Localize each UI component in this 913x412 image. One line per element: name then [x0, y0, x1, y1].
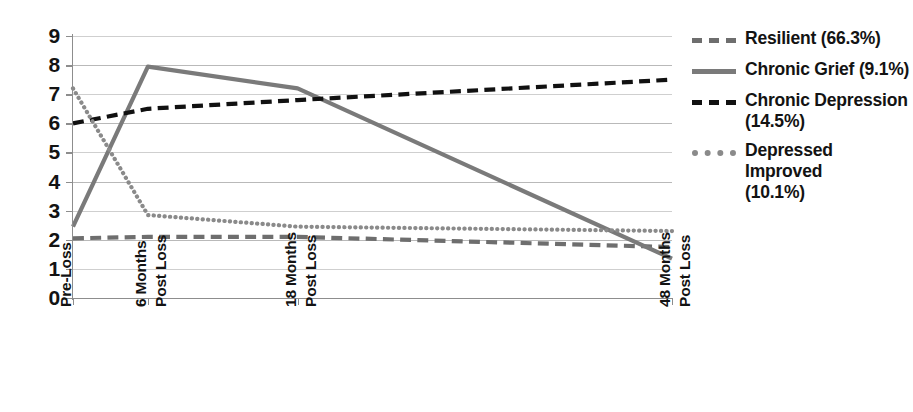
- y-axis-tick: [66, 240, 73, 241]
- legend-line-marker: [692, 38, 736, 43]
- legend-swatch-dotted-icon: [692, 141, 736, 162]
- chart-legend: Resilient (66.3%)Chronic Grief (9.1%)Chr…: [692, 28, 910, 211]
- legend-label-line: Resilient (66.3%): [745, 28, 881, 49]
- y-axis-tick-label: 9: [20, 25, 60, 46]
- y-axis-labels: 0123456789: [0, 0, 60, 412]
- legend-line-marker: [692, 69, 736, 74]
- y-axis-tick-label: 7: [20, 83, 60, 104]
- legend-label: Chronic Grief (9.1%): [745, 59, 909, 80]
- legend-label-line: Chronic Depression: [745, 90, 908, 111]
- legend-item[interactable]: Depressed Improved(10.1%): [692, 140, 910, 202]
- legend-line-marker: [692, 150, 736, 156]
- legend-label-line: Depressed Improved: [745, 140, 910, 181]
- y-axis-tick-label: 5: [20, 141, 60, 162]
- y-axis-tick: [66, 65, 73, 66]
- legend-swatch-dashed-icon: [692, 29, 736, 50]
- legend-item[interactable]: Resilient (66.3%): [692, 28, 910, 50]
- legend-swatch-solid-icon: [692, 60, 736, 81]
- y-axis-tick: [66, 211, 73, 212]
- legend-label-line: (10.1%): [745, 182, 910, 203]
- y-axis-tick: [66, 152, 73, 153]
- y-axis-tick-label: 1: [20, 258, 60, 279]
- legend-label-line: Chronic Grief (9.1%): [745, 59, 909, 80]
- line-chart: 0123456789 Pre-Loss6 MonthsPost Loss18 M…: [0, 0, 913, 412]
- y-axis-tick: [66, 36, 73, 37]
- y-axis-tick-label: 6: [20, 112, 60, 133]
- legend-line-marker: [692, 100, 736, 105]
- y-axis-tick: [66, 94, 73, 95]
- y-axis-tick: [66, 182, 73, 183]
- y-axis-tick-label: 0: [20, 287, 60, 308]
- y-axis-tick: [66, 123, 73, 124]
- legend-swatch-dashed-icon: [692, 91, 736, 112]
- legend-label-line: (14.5%): [745, 111, 908, 132]
- y-axis-tick-label: 4: [20, 171, 60, 192]
- legend-label: Resilient (66.3%): [745, 28, 881, 49]
- y-axis-tick-label: 3: [20, 200, 60, 221]
- y-axis-tick-label: 2: [20, 229, 60, 250]
- legend-item[interactable]: Chronic Grief (9.1%): [692, 59, 910, 81]
- legend-label: Chronic Depression(14.5%): [745, 90, 908, 131]
- legend-item[interactable]: Chronic Depression(14.5%): [692, 90, 910, 131]
- legend-label: Depressed Improved(10.1%): [745, 140, 910, 202]
- y-axis-tick-label: 8: [20, 54, 60, 75]
- series-line: [73, 80, 672, 124]
